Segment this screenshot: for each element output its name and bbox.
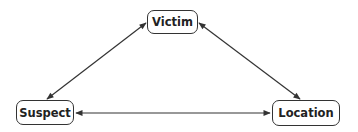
edge-victim-location xyxy=(199,23,300,99)
node-suspect-label: Suspect xyxy=(19,106,71,120)
node-victim: Victim xyxy=(147,10,198,34)
edge-suspect-victim xyxy=(47,23,146,99)
node-victim-label: Victim xyxy=(152,15,193,29)
node-location-label: Location xyxy=(278,106,333,120)
node-suspect: Suspect xyxy=(16,100,74,125)
node-location: Location xyxy=(272,100,340,126)
